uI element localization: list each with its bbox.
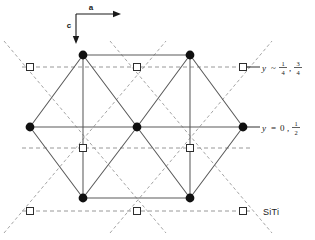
fraction-numerator: 3 bbox=[296, 60, 299, 67]
bond-diagonal-tl-center bbox=[83, 55, 137, 127]
open-square-atom bbox=[240, 64, 247, 71]
middle-level-label-group: y = 0 , 1 2 bbox=[247, 120, 300, 136]
bond-lower-left-wing bbox=[30, 127, 83, 198]
middle-level-fraction-one-half: 1 2 bbox=[292, 120, 300, 136]
axis-indicator bbox=[73, 11, 121, 44]
fraction-denominator: 4 bbox=[296, 69, 300, 76]
filled-circle-atom bbox=[186, 194, 195, 203]
filled-circle-atom bbox=[133, 123, 142, 132]
bond-upper-left-wing bbox=[30, 55, 83, 127]
upper-level-relation: ~ bbox=[271, 63, 276, 73]
axis-c-arrowhead bbox=[73, 36, 79, 44]
upper-level-separator: , bbox=[289, 63, 291, 73]
bond-lower-right-wing bbox=[190, 127, 243, 198]
bond-diagonal-bl-center bbox=[83, 127, 137, 198]
open-square-atom bbox=[134, 64, 141, 71]
filled-circle-atom bbox=[79, 194, 88, 203]
fraction-denominator: 4 bbox=[281, 69, 285, 76]
fraction-numerator: 1 bbox=[294, 120, 297, 127]
axis-c-label: c bbox=[67, 21, 72, 30]
filled-circle-atom bbox=[239, 123, 248, 132]
structure-diagram: a c y ~ 1 4 , 3 4 y = 0 bbox=[0, 0, 315, 240]
fraction-denominator: 2 bbox=[294, 129, 297, 136]
upper-level-variable: y bbox=[261, 63, 266, 73]
crystal-structure-figure: a c y ~ 1 4 , 3 4 y = 0 bbox=[0, 0, 315, 240]
fraction-numerator: 1 bbox=[281, 60, 284, 67]
compound-formula-label: SiTi bbox=[263, 207, 279, 217]
middle-level-variable: y bbox=[261, 123, 266, 133]
filled-circle-atom bbox=[79, 51, 88, 60]
open-square-atom bbox=[27, 208, 34, 215]
middle-level-separator: , bbox=[287, 123, 289, 133]
axis-a-arrowhead bbox=[113, 11, 121, 17]
middle-level-first-value: 0 bbox=[280, 123, 285, 133]
open-square-atom bbox=[134, 208, 141, 215]
bond-upper-right-wing bbox=[190, 55, 243, 127]
upper-level-label-group: y ~ 1 4 , 3 4 bbox=[247, 60, 302, 76]
dashed-horizontal-lines bbox=[22, 67, 251, 211]
filled-circle-atom bbox=[186, 51, 195, 60]
open-square-atom bbox=[27, 64, 34, 71]
open-square-atom bbox=[240, 208, 247, 215]
upper-level-fraction-one-quarter: 1 4 bbox=[279, 60, 287, 76]
open-square-atom bbox=[80, 145, 87, 152]
bond-diagonal-br-center bbox=[137, 127, 190, 198]
filled-circle-atom bbox=[26, 123, 35, 132]
middle-level-relation: = bbox=[271, 123, 276, 133]
upper-level-fraction-three-quarters: 3 4 bbox=[294, 60, 302, 76]
bond-diagonal-tr-center bbox=[137, 55, 190, 127]
open-square-atom bbox=[187, 145, 194, 152]
axis-a-label: a bbox=[89, 3, 94, 12]
